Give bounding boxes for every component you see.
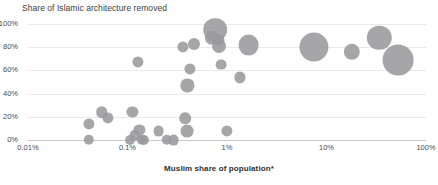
data-bubble[interactable] [188,38,200,50]
data-bubble[interactable] [180,124,193,137]
y-tick-label: 100% [0,20,18,28]
chart-screenshot: Share of Islamic architecture removed 0%… [0,0,438,185]
data-bubble[interactable] [212,39,226,53]
x-tick-label: 10% [319,143,334,152]
x-tick-label: 0.1% [119,143,136,152]
chart-title: Share of Islamic architecture removed [22,3,167,13]
gridline [28,94,426,95]
y-tick-label: 80% [0,43,18,51]
data-bubble[interactable] [238,34,259,55]
gridline [28,24,426,25]
data-bubble[interactable] [181,79,194,92]
data-bubble[interactable] [344,44,360,60]
data-bubble[interactable] [234,72,245,83]
y-axis-labels: 0%20%40%60%80%100% [0,24,24,140]
data-bubble[interactable] [299,33,328,62]
data-bubble[interactable] [221,125,232,136]
data-bubble[interactable] [177,42,188,53]
x-axis-title: Muslim share of population* [0,164,438,173]
gridline [28,47,426,48]
y-tick-label: 20% [0,113,18,121]
plot-area [28,24,426,140]
y-tick-label: 40% [0,90,18,98]
x-tick-label: 0.01% [17,143,38,152]
x-axis-labels: 0.01%0.1%1%10%100% [0,143,438,155]
data-bubble[interactable] [134,124,145,135]
data-bubble[interactable] [184,64,195,75]
data-bubble[interactable] [132,57,143,68]
x-tick-label: 100% [416,143,435,152]
data-bubble[interactable] [153,125,164,136]
data-bubble[interactable] [382,45,413,76]
data-bubble[interactable] [179,112,191,124]
gridline [28,70,426,71]
data-bubble[interactable] [102,112,113,123]
y-tick-label: 60% [0,66,18,74]
x-tick-label: 1% [222,143,233,152]
data-bubble[interactable] [216,59,227,70]
data-bubble[interactable] [83,118,94,129]
